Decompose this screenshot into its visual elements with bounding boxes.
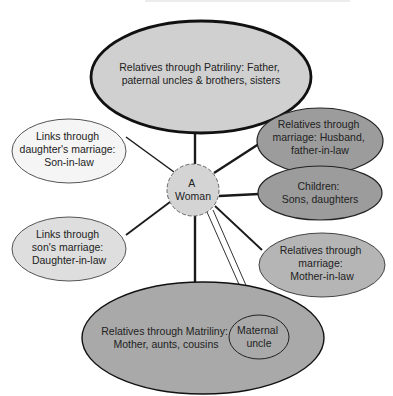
- node-patriliny-label: Relatives through Patriliny: Father, pat…: [119, 61, 282, 86]
- edge-woman-daughters-marriage: [126, 137, 174, 172]
- kinship-diagram: Relatives through Patriliny: Father, pat…: [0, 0, 393, 396]
- edge-woman-children: [219, 194, 259, 196]
- edge-woman-mother-in-law: [215, 206, 262, 250]
- node-daughters-marriage: Links through daughter's marriage: Son-i…: [12, 119, 126, 183]
- node-woman: A Woman: [167, 164, 219, 216]
- node-maternal-uncle: Maternal uncle: [229, 315, 289, 359]
- node-children: Children: Sons, daughters: [258, 166, 382, 220]
- edge-woman-sons-marriage: [126, 202, 170, 235]
- node-mother-in-law: Relatives through marriage: Mother-in-la…: [259, 233, 385, 297]
- node-sons-marriage-label: Links through son's marriage: Daughter-i…: [32, 228, 107, 266]
- node-husband: Relatives through marriage: Husband, fat…: [257, 108, 383, 174]
- node-sons-marriage: Links through son's marriage: Daughter-i…: [12, 217, 126, 281]
- node-matriliny-label: Relatives through Matriliny: Mother, aun…: [101, 325, 231, 350]
